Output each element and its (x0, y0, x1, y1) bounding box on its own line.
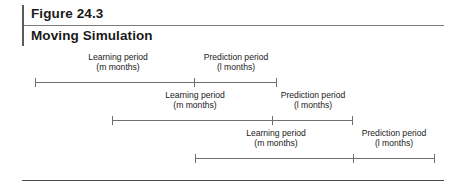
row-3-learning-sub: (m months) (224, 138, 328, 148)
row-1-prediction-label: Prediction period (l months) (184, 52, 288, 72)
row-2-start-tick (112, 116, 113, 125)
row-2-split-tick (272, 116, 273, 125)
row-2-prediction-label: Prediction period (l months) (261, 90, 365, 110)
row-1-start-tick (35, 78, 36, 87)
row-3-prediction-label: Prediction period (l months) (342, 128, 446, 148)
row-3-end-tick (434, 154, 435, 163)
row-1-split-tick (194, 78, 195, 87)
row-2-end-tick (352, 116, 353, 125)
figure-title: Moving Simulation (31, 27, 153, 45)
row-1-prediction-sub: (l months) (184, 62, 288, 72)
row-2-learning-label: Learning period (m months) (143, 90, 247, 110)
header-divider (24, 25, 444, 26)
row-3-prediction-title: Prediction period (362, 128, 427, 138)
row-1-end-tick (276, 78, 277, 87)
row-2-prediction-sub: (l months) (261, 100, 365, 110)
row-3-axis-line (195, 158, 434, 159)
figure-panel: Figure 24.3 Moving Simulation Learning p… (0, 0, 464, 195)
row-3-split-tick (353, 154, 354, 163)
row-1-axis-line (35, 82, 276, 83)
row-3-prediction-sub: (l months) (342, 138, 446, 148)
row-2-axis-line (112, 120, 352, 121)
row-1-learning-sub: (m months) (66, 62, 170, 72)
row-2-learning-title: Learning period (165, 90, 225, 100)
row-2-prediction-title: Prediction period (281, 90, 346, 100)
row-1-learning-label: Learning period (m months) (66, 52, 170, 72)
row-2-learning-sub: (m months) (143, 100, 247, 110)
row-1-learning-title: Learning period (88, 52, 148, 62)
row-3-start-tick (195, 154, 196, 163)
figure-bottom-rule (22, 180, 444, 181)
row-1-prediction-title: Prediction period (204, 52, 269, 62)
figure-number: Figure 24.3 (31, 5, 103, 23)
row-3-learning-label: Learning period (m months) (224, 128, 328, 148)
row-3-learning-title: Learning period (246, 128, 306, 138)
figure-header: Figure 24.3 Moving Simulation (22, 5, 444, 46)
